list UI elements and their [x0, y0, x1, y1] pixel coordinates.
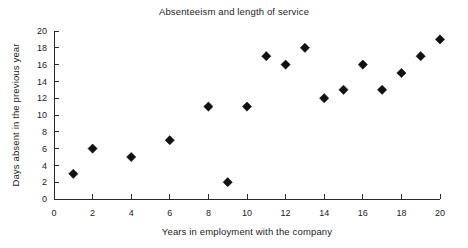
x-tick-label: 16	[358, 208, 368, 218]
x-tick-label: 14	[319, 208, 329, 218]
data-point	[281, 60, 290, 69]
data-point	[223, 178, 232, 187]
data-point	[358, 60, 367, 69]
data-point	[69, 169, 78, 178]
y-axis-ticks: 02468101214161820	[37, 26, 59, 204]
y-tick-label: 0	[42, 194, 47, 204]
data-point	[378, 85, 387, 94]
data-point	[300, 43, 309, 52]
y-tick-label: 14	[37, 77, 47, 87]
y-tick-label: 10	[37, 110, 47, 120]
data-point	[204, 102, 213, 111]
y-tick-label: 2	[42, 177, 47, 187]
y-tick-label: 8	[42, 127, 47, 137]
y-tick-label: 12	[37, 93, 47, 103]
data-point-group	[69, 35, 445, 187]
x-tick-label: 6	[167, 208, 172, 218]
x-tick-label: 0	[51, 208, 56, 218]
y-axis-title: Days absent in the previous year	[10, 43, 21, 186]
y-tick-label: 4	[42, 161, 47, 171]
x-axis-title: Years in employment with the company	[162, 226, 332, 237]
data-point	[339, 85, 348, 94]
y-tick-label: 18	[37, 43, 47, 53]
data-point	[416, 52, 425, 61]
data-point	[88, 144, 97, 153]
x-tick-label: 10	[242, 208, 252, 218]
data-point	[320, 94, 329, 103]
data-point	[262, 52, 271, 61]
x-tick-label: 4	[129, 208, 134, 218]
x-axis-ticks: 02468101214161820	[51, 194, 445, 218]
plot-area: 02468101214161820 02468101214161820 Days…	[0, 0, 468, 248]
y-tick-label: 20	[37, 26, 47, 36]
y-tick-label: 16	[37, 60, 47, 70]
x-tick-label: 18	[396, 208, 406, 218]
data-point	[397, 68, 406, 77]
x-tick-label: 12	[281, 208, 291, 218]
data-point	[165, 136, 174, 145]
scatter-chart: Absenteeism and length of service 024681…	[0, 0, 468, 248]
y-tick-label: 6	[42, 144, 47, 154]
x-tick-label: 20	[435, 208, 445, 218]
data-point	[127, 152, 136, 161]
x-tick-label: 2	[90, 208, 95, 218]
x-tick-label: 8	[206, 208, 211, 218]
data-point	[435, 35, 444, 44]
data-point	[242, 102, 251, 111]
